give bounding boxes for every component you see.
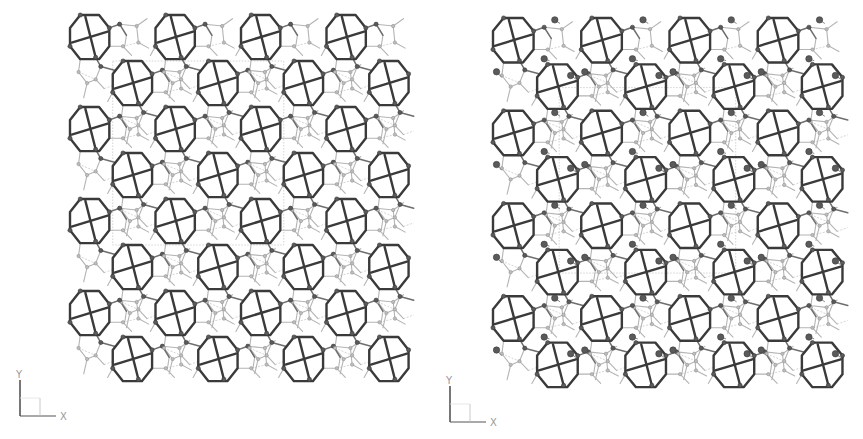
structure-panel-right [493, 18, 846, 389]
structure-panel-left [70, 15, 412, 383]
x-axis-label: X [490, 417, 497, 428]
xy-axis-icon: Y X [14, 372, 74, 427]
y-axis-label: Y [15, 369, 23, 380]
y-axis-label: Y [445, 375, 453, 386]
framework-projection-right [493, 18, 846, 389]
axis-triad-right: Y X [444, 378, 504, 433]
axis-triad-left: Y X [14, 372, 74, 427]
xy-axis-icon: Y X [444, 378, 504, 433]
framework-projection-left [70, 15, 412, 383]
x-axis-label: X [60, 411, 67, 422]
